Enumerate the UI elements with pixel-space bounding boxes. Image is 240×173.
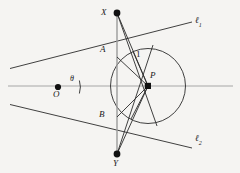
- label-X: X: [101, 8, 107, 17]
- label-line-l2: ℓ2: [195, 134, 202, 145]
- label-A: A: [100, 45, 106, 54]
- label-l2-subscript: 2: [199, 140, 202, 146]
- segment-PA: [117, 57, 148, 86]
- point-dot-P: [145, 83, 151, 89]
- label-radius-1: 1: [136, 50, 141, 59]
- label-P: P: [150, 71, 156, 80]
- geometry-figure: X Y O P A B θ 1 ℓ1 ℓ2: [0, 0, 240, 173]
- segment-YP: [117, 86, 148, 154]
- point-dot-X: [114, 10, 121, 17]
- point-dot-Y: [114, 151, 121, 158]
- label-O: O: [53, 90, 60, 99]
- angle-theta-arc: [79, 81, 80, 94]
- label-line-l1: ℓ1: [195, 16, 202, 27]
- label-l1-subscript: 1: [199, 22, 202, 28]
- geometry-canvas: [0, 0, 240, 173]
- label-B: B: [99, 110, 105, 119]
- label-theta: θ: [70, 75, 74, 83]
- label-Y: Y: [113, 159, 118, 168]
- segment-PB: [117, 86, 148, 117]
